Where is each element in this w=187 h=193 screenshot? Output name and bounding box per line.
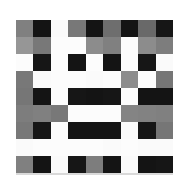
heatmap-cell (33, 20, 50, 37)
heatmap-cell (121, 156, 138, 173)
heatmap-cell (33, 54, 50, 71)
heatmap-cell (103, 156, 120, 173)
heatmap-cell (16, 37, 33, 54)
heatmap-cell (16, 105, 33, 122)
heatmap-cell (86, 71, 103, 88)
heatmap-cell (68, 37, 85, 54)
heatmap-cell (16, 139, 33, 156)
heatmap-cell (121, 37, 138, 54)
heatmap-cell (51, 20, 68, 37)
heatmap-cell (138, 71, 155, 88)
heatmap-cell (103, 139, 120, 156)
heatmap-cell (86, 122, 103, 139)
heatmap-cell (156, 156, 173, 173)
figure-canvas (0, 0, 187, 193)
heatmap-cell (16, 54, 33, 71)
heatmap-cell (103, 71, 120, 88)
heatmap-cell (138, 156, 155, 173)
heatmap-cell (121, 88, 138, 105)
heatmap-cell (86, 54, 103, 71)
heatmap-cell (103, 88, 120, 105)
heatmap-cell (51, 88, 68, 105)
heatmap-cell (51, 156, 68, 173)
heatmap-cell (103, 105, 120, 122)
heatmap-cell (33, 71, 50, 88)
heatmap-cell (138, 139, 155, 156)
heatmap-cell (103, 37, 120, 54)
heatmap-cell (86, 20, 103, 37)
heatmap-grid (16, 20, 173, 173)
heatmap-cell (103, 54, 120, 71)
heatmap-cell (68, 54, 85, 71)
heatmap-cell (86, 88, 103, 105)
heatmap-cell (121, 71, 138, 88)
heatmap-cell (68, 156, 85, 173)
heatmap-cell (156, 139, 173, 156)
heatmap-cell (156, 122, 173, 139)
heatmap-cell (138, 105, 155, 122)
heatmap-cell (51, 122, 68, 139)
heatmap-cell (33, 88, 50, 105)
heatmap-cell (68, 105, 85, 122)
heatmap-cell (51, 105, 68, 122)
heatmap-cell (138, 54, 155, 71)
heatmap-cell (138, 88, 155, 105)
heatmap-cell (121, 105, 138, 122)
heatmap-cell (156, 54, 173, 71)
heatmap-cell (16, 88, 33, 105)
heatmap-cell (33, 37, 50, 54)
heatmap-cell (16, 20, 33, 37)
heatmap-cell (103, 20, 120, 37)
heatmap-cell (51, 54, 68, 71)
heatmap-cell (33, 105, 50, 122)
heatmap-cell (68, 122, 85, 139)
heatmap-cell (68, 88, 85, 105)
heatmap-cell (121, 122, 138, 139)
heatmap-cell (121, 139, 138, 156)
heatmap-cell (156, 105, 173, 122)
heatmap-cell (103, 122, 120, 139)
heatmap-cell (138, 20, 155, 37)
heatmap-cell (51, 71, 68, 88)
heatmap-cell (86, 105, 103, 122)
heatmap-cell (33, 139, 50, 156)
heatmap-cell (121, 20, 138, 37)
heatmap-cell (156, 20, 173, 37)
heatmap-cell (68, 20, 85, 37)
heatmap-bottom-edge (16, 173, 173, 175)
heatmap-cell (138, 37, 155, 54)
heatmap-cell (68, 139, 85, 156)
heatmap-cell (86, 139, 103, 156)
heatmap-cell (33, 156, 50, 173)
heatmap-cell (156, 88, 173, 105)
heatmap-cell (16, 71, 33, 88)
heatmap-cell (51, 37, 68, 54)
heatmap-cell (138, 122, 155, 139)
heatmap-cell (16, 122, 33, 139)
heatmap-cell (86, 156, 103, 173)
heatmap-cell (121, 54, 138, 71)
heatmap-cell (86, 37, 103, 54)
heatmap-cell (51, 139, 68, 156)
heatmap-cell (156, 71, 173, 88)
heatmap-cell (16, 156, 33, 173)
heatmap-cell (156, 37, 173, 54)
heatmap-cell (33, 122, 50, 139)
heatmap-cell (68, 71, 85, 88)
